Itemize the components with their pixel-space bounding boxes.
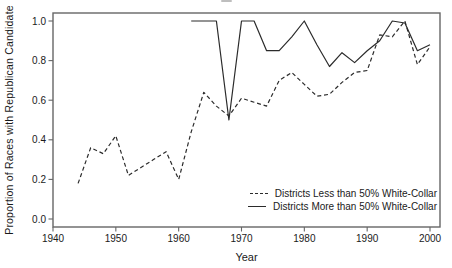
x-tick-label: 1970 — [230, 233, 253, 244]
x-tick-label: 1960 — [168, 233, 191, 244]
legend-item-more-than-50: Districts More than 50% White-Collar — [248, 201, 437, 212]
solid-line-swatch — [248, 206, 266, 207]
chart-figure: 19401950196019701980199020000.00.20.40.6… — [0, 0, 452, 268]
dashed-line-swatch — [250, 193, 268, 194]
x-tick-label: 1980 — [293, 233, 316, 244]
x-axis-title: Year — [53, 251, 440, 263]
legend: Districts Less than 50% White-Collar Dis… — [248, 188, 437, 212]
y-tick-label: 0.6 — [32, 95, 46, 106]
y-tick-label: 1.0 — [32, 16, 46, 27]
x-tick-label: 2000 — [419, 233, 442, 244]
series-line-more-than-50-white-collar — [191, 21, 430, 120]
legend-item-less-than-50: Districts Less than 50% White-Collar — [250, 188, 437, 199]
x-tick-label: 1990 — [356, 233, 379, 244]
x-tick-label: 1940 — [42, 233, 65, 244]
line-chart-canvas: 19401950196019701980199020000.00.20.40.6… — [0, 0, 452, 268]
y-tick-label: 0.8 — [32, 55, 46, 66]
y-tick-label: 0.2 — [32, 174, 46, 185]
y-axis-title: Proportion of Races with Republican Cand… — [3, 5, 15, 235]
y-tick-label: 0.4 — [32, 134, 46, 145]
y-tick-label: 0.0 — [32, 214, 46, 225]
legend-label-less-than-50: Districts Less than 50% White-Collar — [275, 188, 437, 199]
x-tick-label: 1950 — [105, 233, 128, 244]
series-line-less-than-50-white-collar — [78, 21, 430, 183]
legend-label-more-than-50: Districts More than 50% White-Collar — [273, 201, 437, 212]
